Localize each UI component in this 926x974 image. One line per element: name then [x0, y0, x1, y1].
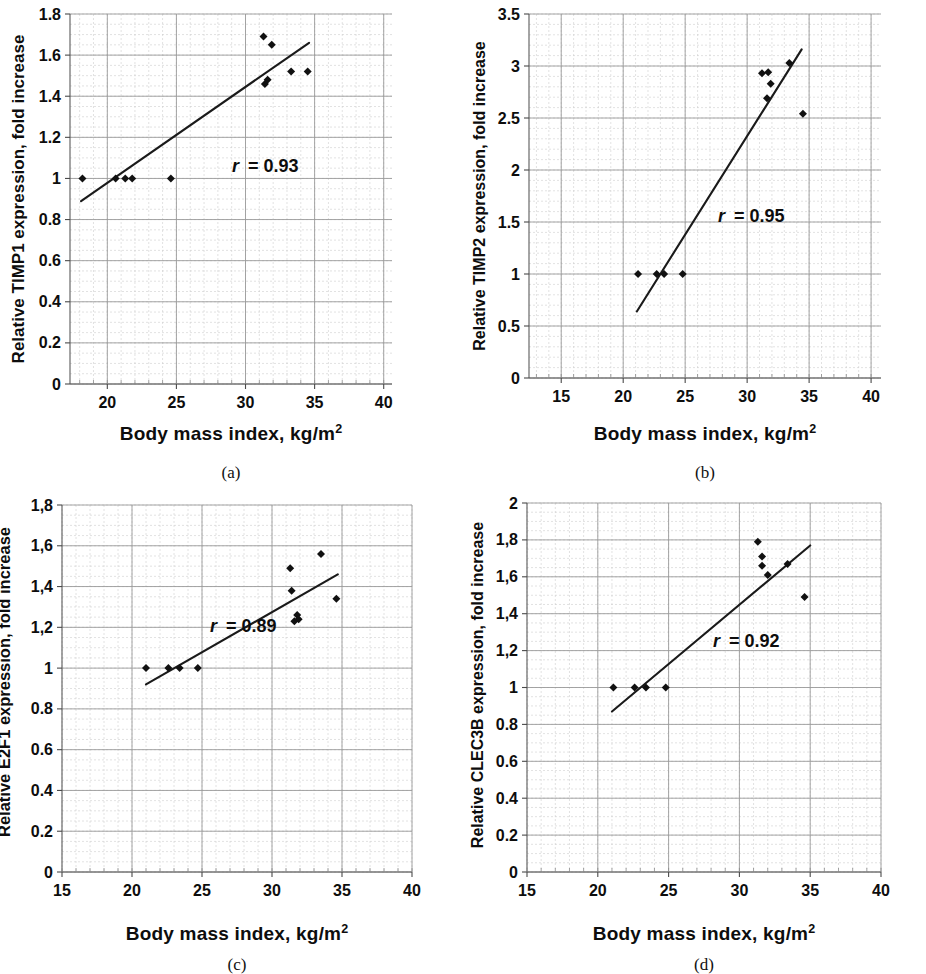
y-tick-label: 1,4	[496, 605, 518, 622]
x-tick-label: 40	[375, 394, 393, 411]
y-tick-label: 1.4	[39, 88, 61, 105]
y-tick-label: 1,8	[31, 497, 53, 514]
x-axis-ticks: 152025303540	[518, 868, 890, 899]
x-tick-label: 15	[518, 882, 536, 899]
x-axis-title: Body mass index, kg/m2	[594, 422, 816, 444]
chart-d: 00.20.40.60.811,21,41,61,82152025303540r…	[463, 487, 926, 974]
minor-gridlines	[62, 505, 412, 872]
data-point-marker	[288, 587, 296, 595]
panel-caption: (c)	[228, 955, 247, 974]
data-point-marker	[758, 562, 766, 570]
correlation-annotation: r = 0.89	[210, 616, 277, 636]
x-axis-ticks: 152025303540	[53, 868, 421, 899]
data-point-marker	[259, 33, 267, 41]
data-point-marker	[304, 68, 312, 76]
y-tick-label: 2	[511, 162, 520, 179]
x-tick-label: 15	[552, 388, 570, 405]
r-symbol: r	[232, 156, 240, 176]
data-point-marker	[801, 593, 809, 601]
y-axis-title: Relative E2F1 expression, fold increase	[0, 527, 13, 837]
svg-text:r = 0.92: r = 0.92	[713, 631, 780, 651]
panel-c: 00.20.40.60.811,21,41,61,8152025303540r …	[0, 487, 463, 974]
y-tick-label: 1,6	[496, 568, 518, 585]
y-tick-label: 1	[511, 266, 520, 283]
y-tick-label: 0	[509, 864, 518, 881]
data-points	[142, 550, 340, 672]
data-point-marker	[758, 553, 766, 561]
x-tick-label: 40	[862, 388, 880, 405]
y-tick-label: 0	[511, 370, 520, 387]
x-tick-label: 25	[168, 394, 186, 411]
chart-c: 00.20.40.60.811,21,41,61,8152025303540r …	[0, 487, 463, 974]
axes	[529, 14, 881, 378]
r-value: = 0.93	[243, 156, 299, 176]
r-value: = 0.95	[729, 206, 785, 226]
x-tick-label: 30	[738, 388, 756, 405]
minor-gridlines	[70, 14, 392, 384]
figure-four-panel-scatter: 00.20.40.60.811.21.41.61.82025303540r = …	[0, 0, 926, 974]
data-point-marker	[317, 550, 325, 558]
y-tick-label: 0.2	[39, 334, 61, 351]
x-axis-ticks: 2025303540	[80, 380, 393, 411]
data-point-marker	[767, 80, 775, 88]
x-tick-label: 40	[403, 882, 421, 899]
data-point-marker	[799, 110, 807, 118]
y-tick-label: 0.8	[31, 700, 53, 717]
data-point-marker	[609, 684, 617, 692]
x-axis-title: Body mass index, kg/m2	[593, 922, 815, 944]
data-points	[609, 538, 808, 692]
correlation-annotation: r = 0.95	[718, 206, 785, 226]
x-tick-label: 20	[589, 882, 607, 899]
y-tick-label: 0.2	[31, 823, 53, 840]
y-axis-title: Relative TIMP2 expression, fold increase	[471, 41, 488, 351]
y-tick-label: 0.6	[31, 741, 53, 758]
svg-text:r = 0.93: r = 0.93	[232, 156, 299, 176]
data-point-marker	[167, 174, 175, 182]
y-tick-label: 2	[509, 495, 518, 512]
y-axis-ticks: 00.20.40.60.811,21,41,61,82	[496, 495, 527, 881]
y-axis-title: Relative TIMP1 expression, fold increase	[9, 35, 28, 364]
r-symbol: r	[713, 631, 721, 651]
y-axis-ticks: 00.20.40.60.811.21.41.61.8	[39, 6, 70, 393]
y-tick-label: 2.5	[498, 110, 520, 127]
x-axis-ticks: 152025303540	[536, 374, 880, 405]
data-point-marker	[758, 69, 766, 77]
data-point-marker	[754, 538, 762, 546]
data-point-marker	[287, 68, 295, 76]
x-tick-label: 35	[801, 882, 819, 899]
y-tick-label: 0	[52, 376, 61, 393]
y-tick-label: 1,8	[496, 531, 518, 548]
x-tick-label: 40	[872, 882, 890, 899]
y-tick-label: 0.8	[496, 716, 518, 733]
y-tick-label: 1,4	[31, 578, 53, 595]
x-tick-label: 30	[263, 882, 281, 899]
x-tick-label: 30	[237, 394, 255, 411]
r-value: = 0.89	[221, 616, 277, 636]
regression-trendline	[612, 545, 810, 711]
x-tick-label: 20	[98, 394, 116, 411]
correlation-annotation: r = 0.92	[713, 631, 780, 651]
y-tick-label: 1,6	[31, 537, 53, 554]
x-tick-label: 35	[800, 388, 818, 405]
chart-a: 00.20.40.60.811.21.41.61.82025303540r = …	[0, 0, 463, 487]
x-axis-title: Body mass index, kg/m2	[126, 922, 348, 944]
y-tick-label: 3	[511, 58, 520, 75]
y-tick-label: 0.4	[39, 293, 61, 310]
minor-gridlines	[529, 14, 881, 378]
panel-b: 00.511.522.533.5152025303540r = 0.95Body…	[463, 0, 926, 487]
data-point-marker	[142, 664, 150, 672]
data-point-marker	[121, 174, 129, 182]
panel-caption: (a)	[222, 463, 241, 482]
r-symbol: r	[210, 616, 218, 636]
y-tick-label: 1	[52, 170, 61, 187]
panel-caption: (b)	[695, 463, 715, 482]
svg-text:r = 0.89: r = 0.89	[210, 616, 277, 636]
data-point-marker	[634, 270, 642, 278]
x-tick-label: 25	[676, 388, 694, 405]
data-point-marker	[332, 595, 340, 603]
x-tick-label: 20	[614, 388, 632, 405]
x-tick-label: 25	[193, 882, 211, 899]
y-tick-label: 3.5	[498, 6, 520, 23]
x-tick-label: 35	[333, 882, 351, 899]
chart-b: 00.511.522.533.5152025303540r = 0.95Body…	[463, 0, 926, 487]
